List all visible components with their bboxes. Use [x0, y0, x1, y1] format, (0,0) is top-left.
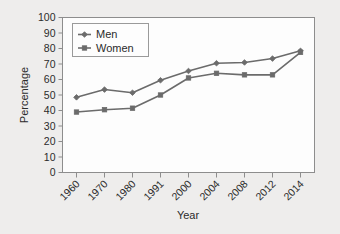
- y-axis-title: Percentage: [18, 67, 30, 123]
- data-point-marker: [186, 76, 190, 80]
- y-tick-label: 60: [44, 73, 56, 85]
- y-tick-label: 90: [44, 27, 56, 39]
- x-axis-title: Year: [177, 209, 200, 221]
- y-tick-label: 20: [44, 135, 56, 147]
- data-point-marker: [298, 50, 302, 54]
- data-point-marker: [270, 73, 274, 77]
- data-point-marker: [102, 108, 106, 112]
- chart-page: 0102030405060708090100 19601970198019912…: [0, 0, 340, 234]
- data-point-marker: [74, 110, 78, 114]
- y-tick-label: 30: [44, 120, 56, 132]
- data-point-marker: [82, 46, 86, 50]
- line-chart: 0102030405060708090100 19601970198019912…: [0, 0, 340, 234]
- data-point-marker: [158, 93, 162, 97]
- legend-label: Men: [96, 28, 117, 40]
- y-tick-label: 100: [38, 11, 56, 23]
- legend-label: Women: [96, 42, 134, 54]
- y-tick-label: 40: [44, 104, 56, 116]
- chart-legend[interactable]: MenWomen: [73, 24, 149, 57]
- y-tick-label: 50: [44, 89, 56, 101]
- data-point-marker: [130, 106, 134, 110]
- y-tick-label: 70: [44, 58, 56, 70]
- y-tick-label: 80: [44, 42, 56, 54]
- y-tick-label: 0: [50, 166, 56, 178]
- data-point-marker: [242, 73, 246, 77]
- data-point-marker: [214, 71, 218, 75]
- y-tick-label: 10: [44, 151, 56, 163]
